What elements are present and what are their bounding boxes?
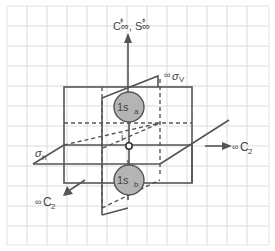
inversion-label: i xyxy=(121,132,123,143)
orbital-1sb-sub: b xyxy=(134,180,139,189)
sigma-h-label: σ xyxy=(35,147,42,159)
sigma-v-label: σ xyxy=(172,70,179,82)
grid xyxy=(7,6,269,245)
symmetry-diagram: C∞, S∞ ϕ ϕ ∞ σ V σ h i ∞ C 2 ∞ C 2 1s a … xyxy=(0,0,275,251)
sigma-v-sub: V xyxy=(179,75,185,84)
c2-right-sub: 2 xyxy=(248,147,253,156)
sigma-v-prefix: ∞ xyxy=(164,70,170,80)
c2-front-prefix: ∞ xyxy=(35,197,41,207)
sigma-h-sub: h xyxy=(42,153,46,162)
orbital-1sb-label: 1s xyxy=(117,174,129,186)
inversion-center xyxy=(126,143,132,149)
orbital-1sa-sub: a xyxy=(134,107,139,116)
orbital-1sa-label: 1s xyxy=(117,101,129,113)
c2-right-prefix: ∞ xyxy=(232,142,238,152)
c2-front-sub: 2 xyxy=(51,202,56,211)
